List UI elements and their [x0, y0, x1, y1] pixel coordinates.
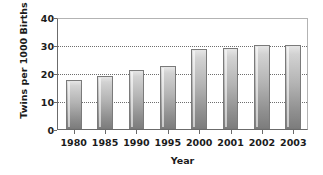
x-tick-mark-1995 [168, 130, 169, 134]
y-tick-mark-40 [53, 18, 57, 19]
bar-slot-2000 [191, 18, 207, 129]
y-tick-label-10: 10 [28, 97, 54, 108]
y-tick-mark-0 [53, 130, 57, 131]
y-axis-title: Twins per 1000 Births [18, 2, 29, 120]
x-tick-mark-2001 [231, 130, 232, 134]
bar-1980[interactable] [66, 80, 82, 129]
bar-1990[interactable] [129, 70, 145, 129]
bar-2002[interactable] [254, 45, 270, 129]
bar-2003[interactable] [285, 45, 301, 129]
y-tick-mark-10 [53, 102, 57, 103]
x-tick-mark-1990 [136, 130, 137, 134]
bar-slot-2002 [254, 18, 270, 129]
bar-slot-1985 [97, 18, 113, 129]
y-tick-label-40: 40 [28, 13, 54, 24]
bar-slot-1990 [129, 18, 145, 129]
x-tick-mark-1980 [74, 130, 75, 134]
bar-slot-2003 [285, 18, 301, 129]
twins-per-1000-births-bar-chart: Twins per 1000 Births 010203040 19801985… [0, 0, 323, 175]
bars-container [58, 18, 307, 129]
y-tick-mark-20 [53, 74, 57, 75]
bar-slot-1980 [66, 18, 82, 129]
x-tick-mark-2000 [199, 130, 200, 134]
bar-slot-1995 [160, 18, 176, 129]
y-tick-label-30: 30 [28, 41, 54, 52]
y-tick-label-20: 20 [28, 69, 54, 80]
x-tick-label-2003: 2003 [273, 137, 313, 148]
bar-1995[interactable] [160, 66, 176, 129]
y-tick-mark-30 [53, 46, 57, 47]
x-axis-title: Year [57, 155, 308, 166]
x-tick-mark-2003 [293, 130, 294, 134]
bar-2001[interactable] [223, 48, 239, 129]
x-tick-mark-1985 [105, 130, 106, 134]
y-tick-label-0: 0 [28, 125, 54, 136]
bar-2000[interactable] [191, 49, 207, 129]
bar-slot-2001 [223, 18, 239, 129]
bar-1985[interactable] [97, 76, 113, 129]
x-tick-mark-2002 [262, 130, 263, 134]
